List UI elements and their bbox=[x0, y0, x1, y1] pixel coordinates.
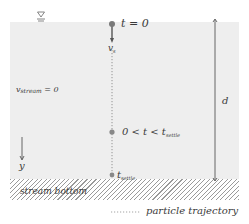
label-t-start: t = 0 bbox=[121, 18, 149, 29]
label-mid-time: 0 < t < tsettle bbox=[122, 127, 180, 137]
particle-settling-diagram: t = 0 vs vstream = 0 d 0 < t < tsettle y… bbox=[0, 0, 249, 224]
y-axis-arrow bbox=[20, 137, 24, 160]
vstream-sub: stream bbox=[21, 87, 42, 94]
mid-time-sub: settle bbox=[166, 132, 180, 138]
particle-mid-icon bbox=[109, 129, 114, 134]
settle-time-sub: settle bbox=[121, 175, 135, 181]
vstream-value: = 0 bbox=[42, 85, 59, 94]
particle-settle-icon bbox=[110, 173, 115, 178]
label-y-axis: y bbox=[19, 161, 25, 171]
particle-start-icon bbox=[109, 21, 115, 27]
t-start-text: t = 0 bbox=[121, 17, 149, 30]
label-stream-bottom: stream bottom bbox=[20, 187, 87, 196]
label-depth: d bbox=[222, 96, 228, 106]
legend-trajectory-text: particle trajectory bbox=[146, 205, 238, 216]
depth-text: d bbox=[222, 95, 228, 106]
y-axis-text: y bbox=[19, 160, 25, 171]
label-settle-time: tsettle bbox=[117, 170, 135, 180]
vs-sub: s bbox=[113, 48, 116, 54]
legend-particle-trajectory: particle trajectory bbox=[146, 206, 238, 216]
water-surface-icon bbox=[37, 12, 45, 21]
depth-arrow bbox=[213, 19, 217, 181]
label-settling-velocity: vs bbox=[108, 44, 116, 53]
label-stream-velocity: vstream = 0 bbox=[16, 86, 59, 94]
mid-time-main: 0 < t < t bbox=[122, 126, 166, 137]
vstream-main: v bbox=[16, 85, 21, 94]
stream-bottom-text: stream bottom bbox=[20, 186, 87, 196]
